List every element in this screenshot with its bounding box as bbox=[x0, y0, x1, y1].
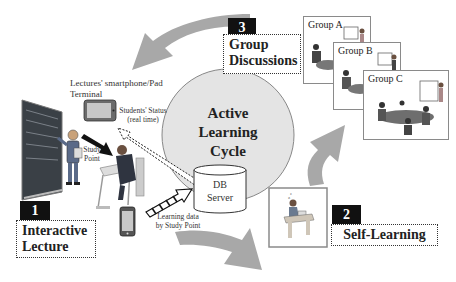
stage-1-label: Interactive Lecture bbox=[16, 220, 96, 258]
group-c-meeting-icon bbox=[364, 71, 448, 139]
terminal-caption-line-1: Lectures' smartphone/Pad bbox=[70, 78, 190, 89]
terminal-caption-line-2: Terminal bbox=[70, 89, 190, 100]
smartphone-icon bbox=[120, 207, 135, 236]
tablet-icon bbox=[84, 100, 116, 121]
learning-data-line-2: by Study Point bbox=[152, 221, 204, 230]
db-server-label: DB Server bbox=[196, 178, 244, 204]
db-label-line-1: DB bbox=[196, 178, 244, 191]
cycle-title-line-3: Cycle bbox=[190, 142, 266, 161]
svg-text:z: z bbox=[290, 191, 292, 196]
chalkboard-icon bbox=[22, 100, 62, 200]
stage-3-label: Group Discussions bbox=[223, 34, 301, 74]
stage-3-line-1: Group bbox=[229, 37, 295, 53]
stage-2-label: Self-Learning bbox=[331, 224, 438, 246]
status-caption-line-1: Students' Status bbox=[118, 106, 168, 115]
students-status-caption: Students' Status (real time) bbox=[118, 106, 168, 124]
cycle-title-line-2: Learning bbox=[190, 123, 266, 142]
group-panel-c: Group C bbox=[363, 70, 449, 140]
study-point-line-1: Study bbox=[80, 145, 104, 154]
cycle-title-line-1: Active bbox=[190, 104, 266, 123]
stage-1-line-1: Interactive bbox=[22, 223, 90, 239]
study-point-line-2: Point bbox=[80, 154, 104, 163]
stage-2-line-1: Self-Learning bbox=[337, 227, 432, 243]
cycle-arrow-right-icon bbox=[308, 125, 345, 186]
stage-3-line-2: Discussions bbox=[229, 53, 295, 69]
study-point-caption: Study Point bbox=[80, 145, 104, 163]
self-learning-picture: z z bbox=[269, 188, 327, 247]
terminal-caption: Lectures' smartphone/Pad Terminal bbox=[70, 78, 190, 100]
cycle-arrow-bottom-icon bbox=[175, 228, 262, 270]
db-label-line-2: Server bbox=[196, 191, 244, 204]
cycle-title: Active Learning Cycle bbox=[190, 104, 266, 161]
learning-data-line-1: Learning data bbox=[152, 212, 204, 221]
learning-data-caption: Learning data by Study Point bbox=[152, 212, 204, 230]
stage-1-line-2: Lecture bbox=[22, 239, 90, 255]
status-caption-line-2: (real time) bbox=[118, 115, 168, 124]
